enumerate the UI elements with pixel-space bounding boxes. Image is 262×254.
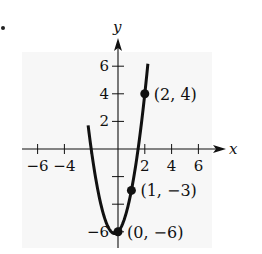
data-point bbox=[127, 186, 136, 195]
x-tick-label: −4 bbox=[53, 157, 75, 175]
x-tick-label: 2 bbox=[140, 157, 150, 175]
y-tick-label: 4 bbox=[99, 85, 109, 103]
y-tick-label: −6 bbox=[87, 223, 109, 241]
point-label: (2, 4) bbox=[154, 85, 197, 104]
point-label: (1, −3) bbox=[140, 181, 196, 200]
plot-panel bbox=[22, 52, 212, 248]
y-tick-label: 6 bbox=[99, 57, 109, 75]
parabola-chart: xy−6−4246246−6(2, 4)(1, −3)(0, −6) bbox=[0, 0, 262, 254]
point-label: (0, −6) bbox=[127, 223, 183, 242]
data-point bbox=[140, 89, 149, 98]
x-tick-label: −6 bbox=[27, 157, 49, 175]
y-axis-label: y bbox=[112, 18, 122, 36]
x-tick-label: 6 bbox=[194, 157, 204, 175]
x-tick-label: 4 bbox=[167, 157, 177, 175]
data-point bbox=[114, 227, 123, 236]
y-tick-label: 2 bbox=[99, 112, 109, 130]
x-axis-label: x bbox=[229, 140, 238, 158]
